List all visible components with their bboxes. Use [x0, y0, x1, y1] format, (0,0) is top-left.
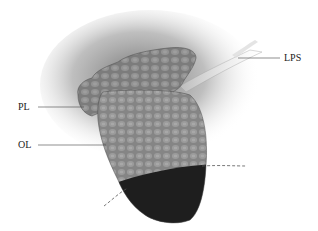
gland-illustration	[0, 0, 318, 231]
label-pl: PL	[18, 102, 30, 112]
label-lps: LPS	[284, 53, 301, 63]
anatomical-diagram: LPS PL OL	[0, 0, 318, 231]
orbital-lobe	[90, 85, 215, 231]
label-ol: OL	[18, 140, 31, 150]
